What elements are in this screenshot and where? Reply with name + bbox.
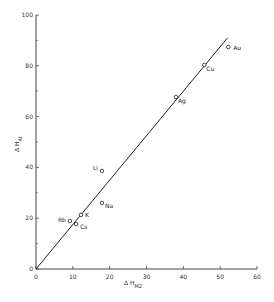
y-tick-label: 60 <box>25 113 33 120</box>
point-label: Cu <box>206 65 214 72</box>
point-label: Rb <box>58 216 66 223</box>
point-label: Li <box>93 164 98 171</box>
y-tick-label: 100 <box>22 11 34 18</box>
data-points: AuCuAgLiNaKRbCs <box>58 44 241 230</box>
x-tick-label: 60 <box>253 273 261 280</box>
fit-line <box>36 38 228 269</box>
point-label: Cs <box>80 223 87 230</box>
point-label: K <box>85 211 90 218</box>
data-point-na <box>100 201 104 205</box>
x-tick-label: 20 <box>106 273 114 280</box>
x-tick-label: 50 <box>216 273 224 280</box>
x-axis-title: Δ HM2 <box>124 279 142 289</box>
y-tick-label: 80 <box>25 62 33 69</box>
data-point-cs <box>74 222 78 226</box>
x-tick-label: 10 <box>69 273 77 280</box>
x-tick-label: 40 <box>180 273 188 280</box>
y-tick-label: 0 <box>29 265 33 272</box>
data-point-k <box>79 213 83 217</box>
data-point-au <box>226 45 230 49</box>
scatter-chart: 0102030405060020406080100 AuCuAgLiNaKRbC… <box>0 0 274 302</box>
axes: 0102030405060020406080100 <box>22 11 261 280</box>
point-label: Na <box>105 202 113 209</box>
data-point-rb <box>68 219 72 223</box>
point-label: Au <box>233 44 241 51</box>
y-axis-title: Δ HAt <box>13 136 23 152</box>
x-tick-label: 0 <box>34 273 38 280</box>
y-tick-label: 40 <box>25 163 33 170</box>
point-label: Ag <box>178 97 186 105</box>
data-point-li <box>100 169 104 173</box>
x-tick-label: 30 <box>143 273 151 280</box>
y-tick-label: 20 <box>25 214 33 221</box>
